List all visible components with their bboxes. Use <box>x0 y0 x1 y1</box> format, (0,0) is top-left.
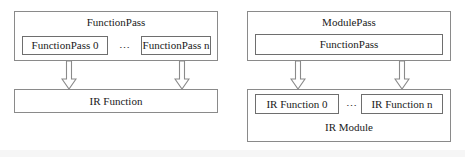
function-pass-0-label: FunctionPass 0 <box>22 36 108 55</box>
diagram-canvas: FunctionPass FunctionPass 0 ⋯ FunctionPa… <box>0 0 465 164</box>
ir-function-label: IR Function <box>14 89 218 113</box>
arrow-down-icon <box>174 61 190 90</box>
function-pass-n-label: FunctionPass n <box>141 36 211 55</box>
function-pass-outer-label: FunctionPass <box>14 17 218 28</box>
bottom-band <box>0 150 465 157</box>
ir-module-label: IR Module <box>247 122 451 133</box>
arrow-down-icon <box>394 61 410 90</box>
ir-module-ellipsis: ⋯ <box>346 101 358 112</box>
ir-function-0-label: IR Function 0 <box>255 94 339 114</box>
module-pass-outer-label: ModulePass <box>247 17 451 28</box>
ir-function-n-label: IR Function n <box>361 94 443 114</box>
module-pass-functionpass-label: FunctionPass <box>255 34 443 55</box>
arrow-down-modulepass-right <box>394 61 410 90</box>
arrow-down-icon <box>290 61 306 90</box>
arrow-down-functionpass-n <box>174 61 190 90</box>
arrow-down-modulepass-left <box>290 61 306 90</box>
arrow-down-icon <box>61 61 77 90</box>
function-pass-ellipsis: ⋯ <box>119 43 131 54</box>
arrow-down-functionpass-0 <box>61 61 77 90</box>
